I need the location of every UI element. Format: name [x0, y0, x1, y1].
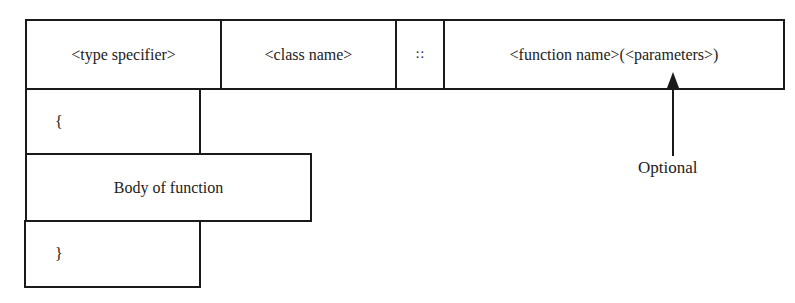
arrow-up-icon	[664, 72, 684, 158]
open-brace-box: {	[25, 88, 201, 155]
function-body-box: Body of function	[25, 153, 312, 222]
scope-operator-text: ·· ··	[415, 50, 424, 60]
class-name-cell: <class name>	[222, 21, 395, 88]
open-brace-text: {	[55, 113, 63, 131]
function-signature-cell: <function name>(<parameters>)	[445, 21, 783, 88]
scope-operator-cell: ·· ··	[397, 21, 443, 88]
type-specifier-cell: <type specifier>	[27, 21, 220, 88]
close-brace-box: }	[24, 220, 201, 288]
function-signature-text: <function name>(<parameters>)	[510, 46, 719, 64]
optional-label: Optional	[638, 158, 698, 178]
type-specifier-text: <type specifier>	[71, 46, 176, 64]
function-body-text: Body of function	[114, 179, 223, 197]
class-name-text: <class name>	[265, 46, 353, 64]
close-brace-text: }	[55, 245, 63, 263]
scope-dots-bottom: ··	[415, 55, 424, 60]
